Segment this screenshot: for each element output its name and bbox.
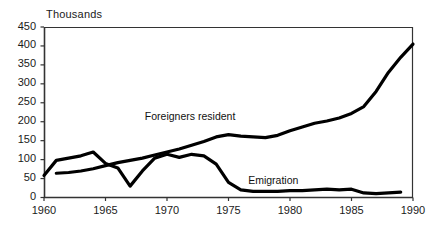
y-tick-label: 150 — [0, 133, 36, 145]
series-label: Emigration — [248, 174, 298, 186]
y-tick-label: 100 — [0, 152, 36, 164]
y-tick-label: 200 — [0, 114, 36, 126]
y-tick-marks — [41, 27, 45, 198]
series-label: Foreigners resident — [145, 110, 235, 122]
x-tick-label: 1980 — [268, 204, 312, 216]
x-tick-label: 1960 — [22, 204, 66, 216]
y-tick-label: 350 — [0, 57, 36, 69]
y-tick-label: 400 — [0, 38, 36, 50]
x-tick-label: 1985 — [330, 204, 374, 216]
y-tick-label: 250 — [0, 95, 36, 107]
y-tick-label: 0 — [0, 190, 36, 202]
series-line — [56, 44, 413, 173]
x-tick-label: 1990 — [391, 204, 430, 216]
x-tick-label: 1975 — [207, 204, 251, 216]
y-tick-label: 300 — [0, 76, 36, 88]
y-tick-label: 50 — [0, 171, 36, 183]
y-tick-label: 450 — [0, 20, 36, 32]
series-line — [44, 152, 401, 194]
x-tick-label: 1970 — [145, 204, 189, 216]
x-tick-label: 1965 — [84, 204, 128, 216]
